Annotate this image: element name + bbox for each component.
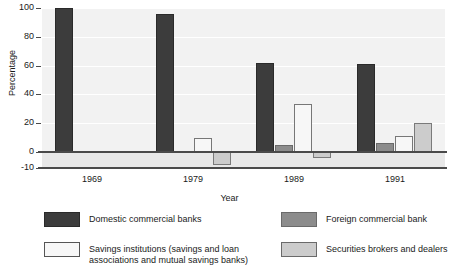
x-axis-title: Year [0,193,459,203]
bar [294,104,312,152]
legend-item-securities-brokers-and-dealers: Securities brokers and dealers [281,242,448,257]
legend-item-savings-institutions: Savings institutions (savings and loan a… [44,242,248,266]
gridline [42,123,445,124]
y-tick-label: 40 [0,89,34,98]
y-tick-mark [36,123,41,124]
legend-item-label: Foreign commercial bank [326,212,427,225]
x-tick-label: 1969 [68,174,116,184]
y-tick-mark [36,8,41,9]
legend-item-foreign-commercial-bank: Foreign commercial bank [281,212,427,227]
y-tick-mark [36,152,41,153]
y-axis-title: Percentage [7,35,17,111]
zero-axis-line [38,151,447,153]
bar [55,8,73,152]
bar [357,64,375,152]
x-tick-label: 1991 [371,174,419,184]
gridline [42,94,445,95]
gridline [42,37,445,38]
y-tick-label: 80 [0,32,34,41]
y-tick-mark [36,168,41,169]
y-tick-label: 20 [0,118,34,127]
bar [194,138,212,152]
legend-swatch-icon [44,242,80,257]
bar [395,136,413,152]
plot-area [42,8,445,152]
bar-chart: 100806040200-10 Percentage Year 19691979… [0,0,459,276]
legend-item-domestic-commercial-banks: Domestic commercial banks [44,212,202,227]
y-tick-label: -10 [0,163,34,172]
x-tick-label: 1989 [270,174,318,184]
bar [156,14,174,152]
y-tick-mark [36,37,41,38]
bar [256,63,274,152]
gridline [42,66,445,67]
legend-item-label: Securities brokers and dealers [326,242,448,255]
bottom-axis-line [38,167,447,169]
bar [213,152,231,165]
legend-swatch-icon [281,242,317,257]
bar [414,123,432,152]
legend-swatch-icon [44,212,80,227]
y-tick-mark [36,66,41,67]
y-tick-mark [36,94,41,95]
y-tick-label: 60 [0,61,34,70]
y-tick-label: 100 [0,3,34,12]
chart-legend: Domestic commercial banks Foreign commer… [0,206,459,276]
legend-swatch-icon [281,212,317,227]
plot-area-negative [42,152,445,168]
legend-item-label: Savings institutions (savings and loan a… [89,242,248,266]
y-tick-label: 0 [0,147,34,156]
legend-item-label: Domestic commercial banks [89,212,202,225]
gridline [42,8,445,9]
x-tick-label: 1979 [169,174,217,184]
